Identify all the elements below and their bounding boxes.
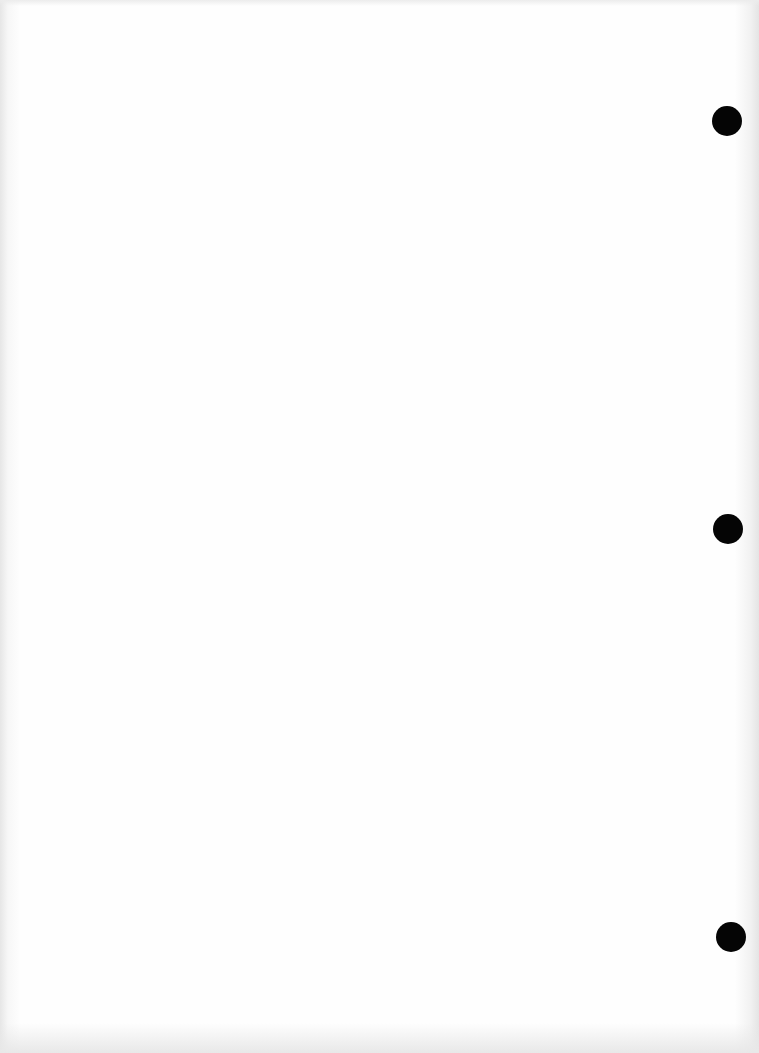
punch-hole-top [712,106,742,136]
punch-hole-middle [713,514,743,544]
page-bottom-edge-shadow [0,1023,759,1053]
blank-page [0,0,759,1053]
page-top-edge-shadow [0,0,759,6]
punch-hole-bottom [716,922,746,952]
